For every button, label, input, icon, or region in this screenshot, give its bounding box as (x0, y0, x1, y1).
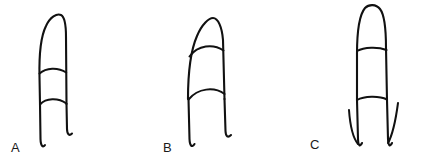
joint-crease-upper-c (357, 48, 387, 51)
figure-label-a: A (11, 141, 20, 154)
joint-crease-lower-b (189, 89, 225, 99)
base-line-left-a (40, 104, 45, 146)
joint-crease-upper-b (190, 46, 224, 56)
base-line-right-a (67, 104, 73, 135)
figure-panel-b (188, 18, 231, 146)
base-sliver-right-c (388, 103, 398, 143)
finger-outline-b (188, 18, 225, 99)
base-line-left-b (189, 99, 195, 146)
base-line-left-c (357, 100, 362, 145)
joint-crease-lower-c (357, 97, 387, 100)
joint-crease-lower-a (40, 99, 66, 104)
base-line-right-b (225, 99, 232, 137)
finger-outline-c (357, 5, 387, 100)
figure-panel-a (39, 14, 72, 146)
diagram-canvas (0, 0, 422, 164)
figure-panel-c (349, 5, 398, 145)
finger-diagram-figure: A B C (0, 0, 422, 164)
finger-outline-a (39, 14, 66, 104)
joint-crease-upper-a (40, 69, 67, 74)
figure-label-b: B (163, 141, 172, 154)
figure-label-c: C (310, 138, 320, 151)
